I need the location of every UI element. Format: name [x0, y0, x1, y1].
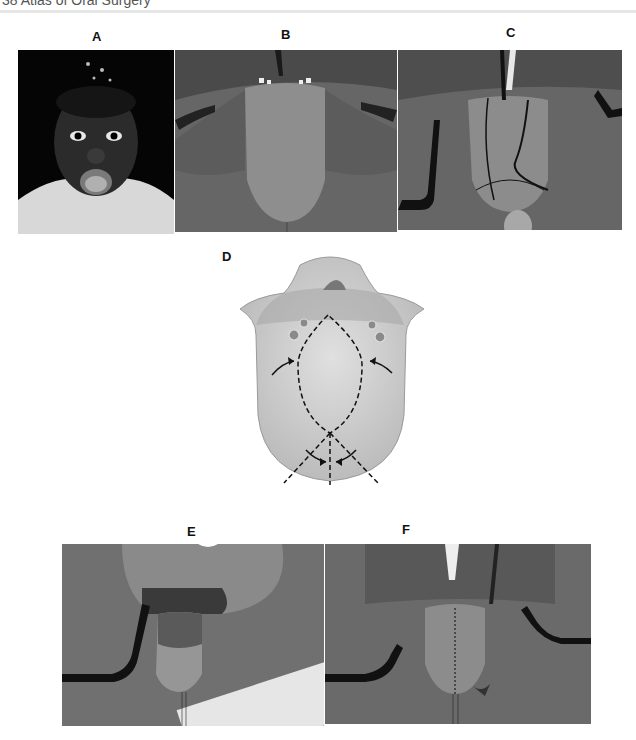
photo-panel-c	[398, 50, 622, 230]
tongue-illustration-panel-d	[228, 255, 433, 485]
tongue-preop-image	[175, 50, 397, 232]
panel-label-c: C	[506, 25, 515, 40]
photo-panel-a	[18, 50, 174, 234]
panel-label-b: B	[281, 27, 290, 42]
tongue-marked-image	[398, 50, 622, 230]
tongue-sutured-image	[325, 544, 591, 724]
page-header: 38 Atlas of Oral Surgery	[0, 0, 636, 13]
tongue-diagram	[228, 255, 433, 485]
tongue-excision-image	[62, 544, 324, 726]
photo-panel-e	[62, 544, 324, 726]
photo-panel-f	[325, 544, 591, 724]
photo-panel-b	[175, 50, 397, 232]
panel-label-f: F	[402, 522, 410, 537]
panel-label-e: E	[187, 524, 196, 539]
header-text: 38 Atlas of Oral Surgery	[2, 0, 151, 8]
panel-label-a: A	[92, 29, 101, 44]
child-face-image	[18, 50, 174, 234]
